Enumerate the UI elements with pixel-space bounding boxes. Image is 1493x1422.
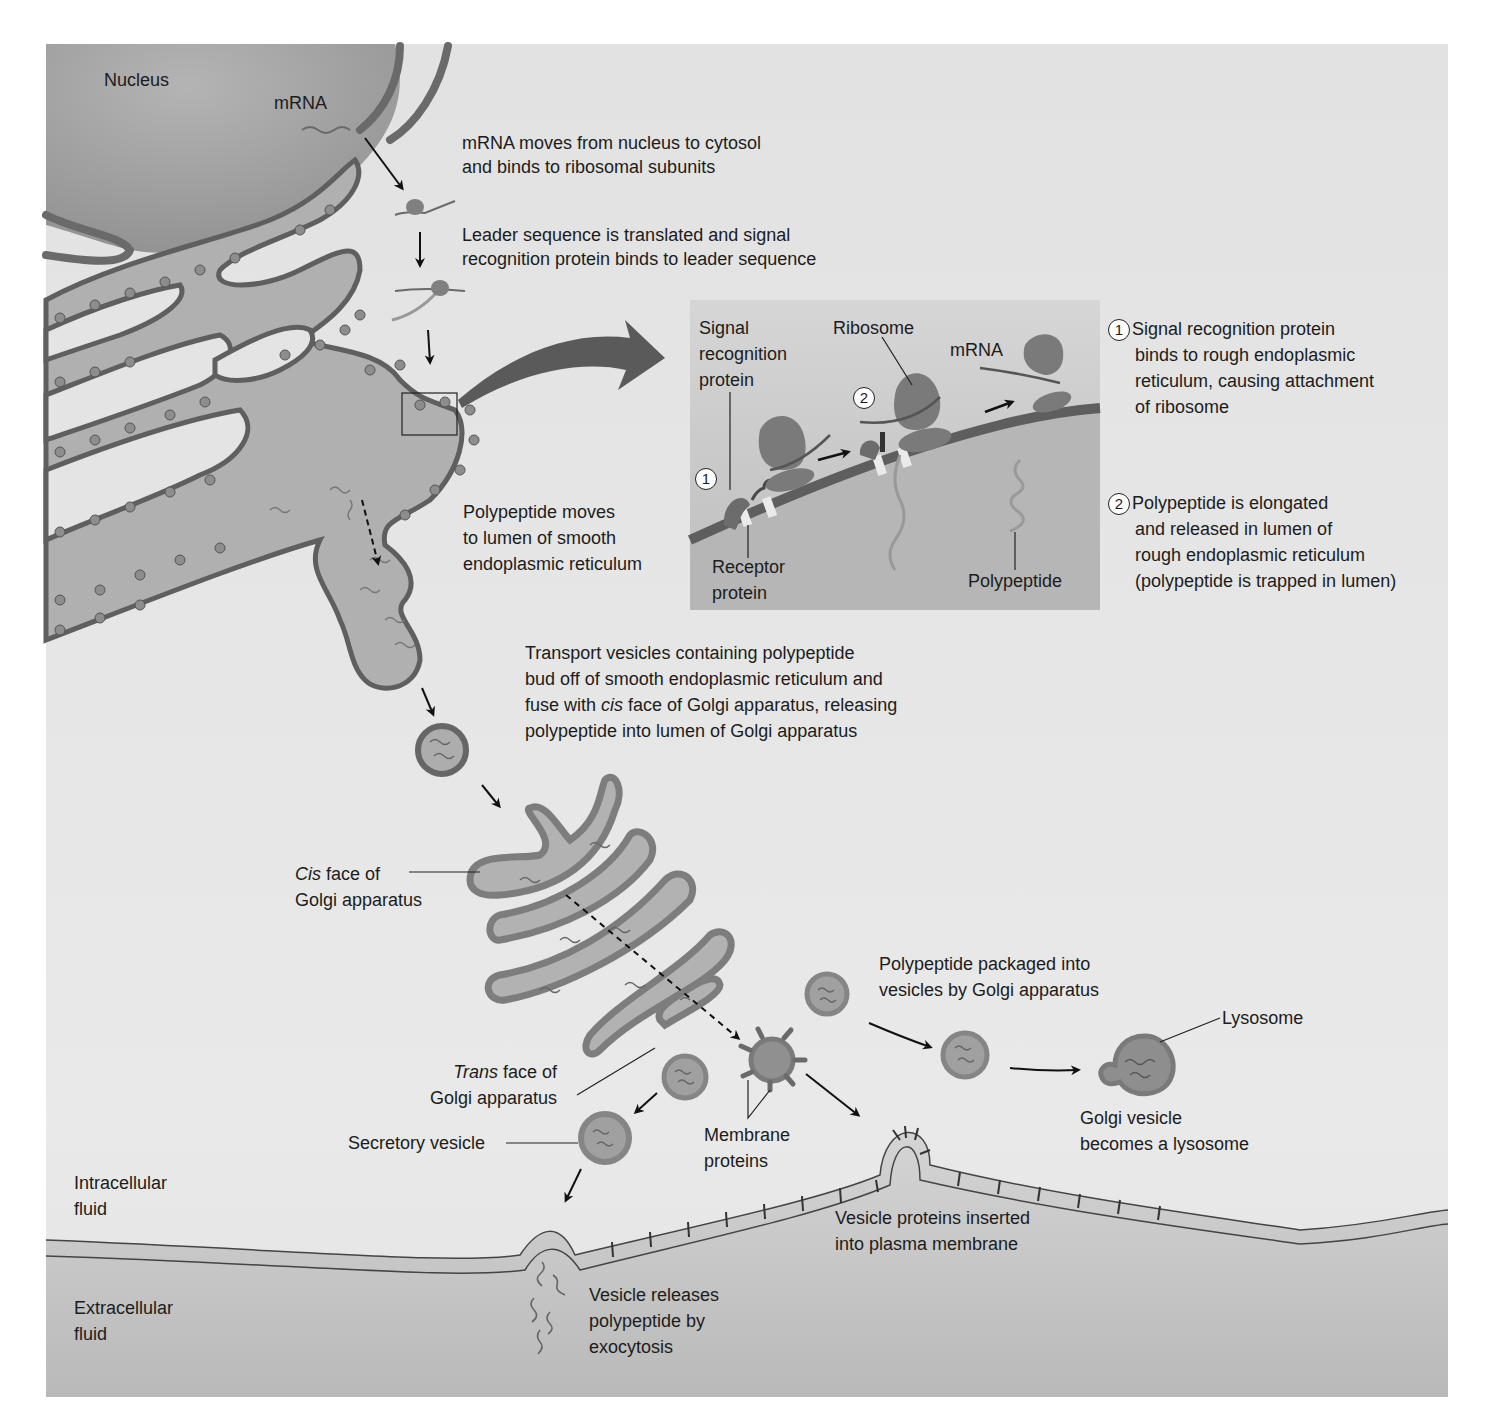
secretory-vesicle-label: Secretory vesicle <box>348 1131 485 1155</box>
intracellular-fluid-label: Intracellular fluid <box>74 1170 167 1222</box>
exocytosis-caption: Vesicle releases polypeptide by exocytos… <box>589 1282 719 1360</box>
packaged-caption: Polypeptide packaged into vesicles by Go… <box>879 951 1099 1003</box>
golgi-lysosome-caption: Golgi vesicle becomes a lysosome <box>1080 1105 1249 1157</box>
lysosome-precursor-vesicle <box>943 1033 987 1077</box>
step-mrna-caption: mRNA moves from nucleus to cytosol and b… <box>462 131 761 179</box>
diagram-stage: Nucleus mRNA mRNA moves from nucleus to … <box>0 0 1493 1422</box>
step-smooth-er-caption: Polypeptide moves to lumen of smooth end… <box>463 499 642 577</box>
inserted-caption: Vesicle proteins inserted into plasma me… <box>835 1205 1030 1257</box>
golgi-vesicle-trans <box>664 1056 706 1098</box>
trans-face-label: Trans face of Golgi apparatus <box>430 1059 557 1111</box>
legend-step-1: 1Signal recognition protein binds to rou… <box>1108 316 1374 420</box>
inset-marker-1: 1 <box>695 466 719 490</box>
golgi-vesicle-packaged <box>807 974 847 1014</box>
inset-receptor-label: Receptor protein <box>712 554 785 606</box>
nucleus-label: Nucleus <box>104 68 169 92</box>
extracellular-fluid-label: Extracellular fluid <box>74 1295 173 1347</box>
step-transport-caption: Transport vesicles containing polypeptid… <box>525 640 897 744</box>
cis-face-label: Cis face of Golgi apparatus <box>295 861 422 913</box>
inset-ribosome-label: Ribosome <box>833 315 914 341</box>
inset-marker-2: 2 <box>853 385 877 409</box>
mrna-label: mRNA <box>274 91 327 115</box>
inset-srp-label: Signal recognition protein <box>699 315 787 393</box>
membrane-proteins-label: Membrane proteins <box>704 1122 790 1174</box>
secretory-vesicle <box>581 1114 629 1162</box>
inset-polypeptide-label: Polypeptide <box>968 568 1062 594</box>
inset-mrna-label: mRNA <box>950 337 1003 363</box>
legend-step-2: 2Polypeptide is elongated and released i… <box>1108 490 1396 594</box>
transport-vesicle <box>418 726 466 774</box>
step-leader-caption: Leader sequence is translated and signal… <box>462 223 816 271</box>
lysosome-label: Lysosome <box>1222 1006 1303 1030</box>
